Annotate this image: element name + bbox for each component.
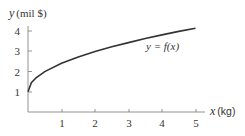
y-tick-label: 2 — [15, 66, 21, 78]
y-axis-label: y(mil $) — [8, 6, 47, 20]
x-tick-label: 5 — [193, 117, 199, 129]
curve-label: y = f(x) — [145, 40, 179, 53]
x-ticks — [62, 109, 196, 112]
x-tick-label: 3 — [126, 117, 132, 129]
y-tick-label: 1 — [15, 86, 21, 98]
x-tick-label: 4 — [159, 117, 165, 129]
y-tick-label: 3 — [15, 45, 21, 57]
x-axis-label: x(kg) — [209, 104, 235, 118]
curve-y-f-x — [28, 28, 196, 91]
chart: 4 3 2 1 1 2 3 4 5 y(mil $) x(kg) y = f(x… — [0, 0, 245, 136]
x-tick-label: 1 — [59, 117, 65, 129]
y-tick-label: 4 — [15, 25, 21, 37]
x-tick-label: 2 — [92, 117, 98, 129]
